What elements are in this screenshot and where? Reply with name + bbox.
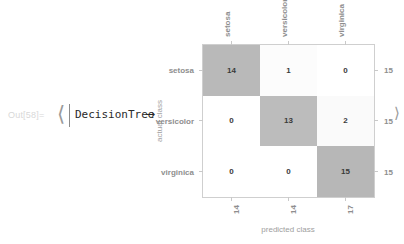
matrix-cell-value: 0 [286,167,290,176]
rule-arrow-icon: → [145,107,155,121]
row-tick [199,171,203,172]
confusion-matrix-grid: setosa setosa 14 versicolor 1 virginica … [202,44,375,198]
output-prompt-label: Out[58]= [8,110,44,120]
matrix-cell: 13 [260,96,317,147]
matrix-cell: versicolor 0 [203,96,260,147]
col-tick [231,41,232,45]
x-axis-title: predicted class [261,225,314,234]
matrix-cell: setosa setosa 14 [203,45,260,96]
row-total-value: 15 [384,66,393,75]
row-total-tick [374,120,378,121]
matrix-cell: 14 0 [260,146,317,197]
col-total-tick [231,197,232,201]
col-label-setosa: setosa [223,12,232,37]
row-label-versicolor: versicolor [156,116,194,125]
matrix-cell-value: 0 [229,167,233,176]
matrix-cell-value: 2 [343,116,347,125]
col-total-tick [288,197,289,201]
row-total-value: 15 [384,167,393,176]
matrix-cell: versicolor 1 [260,45,317,96]
matrix-cell-value: 0 [229,116,233,125]
matrix-cell-value: 1 [286,66,290,75]
association-key-label: DecisionTree [75,108,154,122]
row-tick [199,120,203,121]
col-label-virginica: virginica [337,4,346,37]
association-open-bar [69,104,70,127]
row-total-value: 15 [384,116,393,125]
col-total-value: 17 [346,205,355,214]
col-total-value: 14 [232,205,241,214]
association-close-bracket: ⟩ [394,106,400,121]
row-label-setosa: setosa [169,66,194,75]
confusion-matrix: setosa setosa 14 versicolor 1 virginica … [202,44,375,198]
col-tick [345,41,346,45]
col-label-versicolor: versicolor [280,0,289,37]
row-label-virginica: virginica [161,167,194,176]
matrix-cell-value: 14 [227,66,236,75]
row-tick [199,70,203,71]
association-open-bracket: ⟨ [57,104,65,125]
row-total-tick [374,171,378,172]
col-total-value: 14 [289,205,298,214]
matrix-cell: 15 2 [317,96,374,147]
matrix-cell-value: 15 [341,167,350,176]
matrix-cell: virginica 14 0 [203,146,260,197]
row-total-tick [374,70,378,71]
matrix-cell-value: 0 [343,66,347,75]
col-tick [288,41,289,45]
matrix-cell-value: 13 [284,116,293,125]
col-total-tick [345,197,346,201]
matrix-cell: 17 15 15 [317,146,374,197]
matrix-cell: virginica 15 0 [317,45,374,96]
